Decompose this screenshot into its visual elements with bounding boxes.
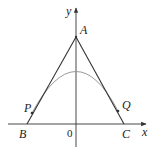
point-Q <box>117 110 120 113</box>
diagram-canvas: y x 0 A B C P Q <box>0 0 154 153</box>
label-C: C <box>122 127 131 141</box>
point-A <box>75 36 77 38</box>
x-axis-label: x <box>141 125 148 139</box>
y-axis-label: y <box>65 4 72 18</box>
label-Q: Q <box>122 98 131 112</box>
label-B: B <box>19 127 27 141</box>
label-P: P <box>23 101 32 115</box>
origin-label: 0 <box>67 127 73 139</box>
line-AB <box>27 37 76 124</box>
label-A: A <box>79 23 88 37</box>
